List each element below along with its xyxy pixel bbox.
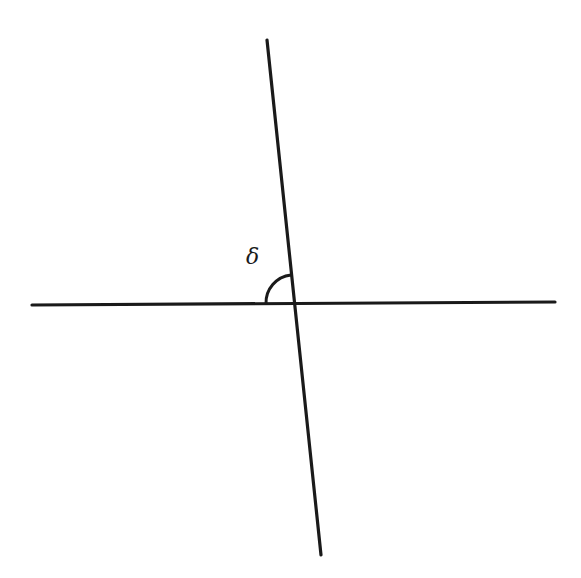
diagram-canvas [0, 0, 581, 578]
transversal-line [267, 40, 321, 555]
angle-delta-label: δ [246, 246, 259, 268]
angle-arc [266, 275, 291, 304]
